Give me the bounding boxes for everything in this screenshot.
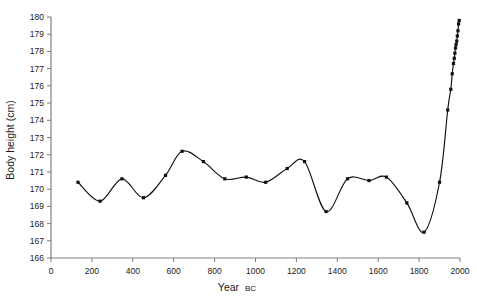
y-tick-label: 173 [30, 133, 44, 143]
y-tick-label: 167 [30, 236, 44, 246]
y-tick-label: 166 [30, 253, 44, 263]
data-point [367, 179, 370, 182]
x-tick-label: 200 [85, 266, 99, 276]
y-tick-label: 171 [30, 167, 44, 177]
data-point [98, 200, 101, 203]
data-point [405, 201, 408, 204]
y-tick-label: 176 [30, 81, 44, 91]
data-point [142, 196, 145, 199]
data-point [303, 160, 306, 163]
data-point [120, 177, 123, 180]
data-point [451, 72, 454, 75]
data-point [202, 160, 205, 163]
y-tick-label: 168 [30, 219, 44, 229]
data-point [449, 88, 452, 91]
data-point [422, 231, 425, 234]
data-point [264, 181, 267, 184]
x-tick-label: 800 [208, 266, 222, 276]
x-tick-label: 1200 [287, 266, 306, 276]
body-height-line-chart: Body height (cm) Year BC 166167168169170… [0, 0, 477, 300]
x-tick-label: 2000 [451, 266, 470, 276]
series-markers-body-height [76, 19, 460, 234]
x-axis-ticks: 0200400600800100012001400160018002000 [49, 258, 470, 276]
y-tick-label: 174 [30, 115, 44, 125]
y-tick-label: 177 [30, 64, 44, 74]
series-line-body-height [78, 20, 459, 232]
data-point [456, 34, 459, 37]
data-point [245, 175, 248, 178]
data-point [455, 40, 458, 43]
data-point [453, 57, 456, 60]
data-point [455, 43, 458, 46]
data-point [453, 52, 456, 55]
x-tick-label: 1600 [369, 266, 388, 276]
x-tick-label: 400 [126, 266, 140, 276]
y-tick-label: 175 [30, 98, 44, 108]
x-axis-title: Year BC [218, 281, 256, 293]
y-tick-label: 172 [30, 150, 44, 160]
data-point [223, 177, 226, 180]
data-point [164, 174, 167, 177]
data-point [346, 177, 349, 180]
x-tick-label: 1000 [246, 266, 265, 276]
data-point [456, 29, 459, 32]
data-point [446, 108, 449, 111]
y-tick-label: 180 [30, 12, 44, 22]
y-axis-title: Body height (cm) [4, 100, 16, 179]
y-tick-label: 178 [30, 46, 44, 56]
data-point [454, 46, 457, 49]
chart-figure: Body height (cm) Year BC 166167168169170… [0, 0, 477, 300]
data-point [324, 210, 327, 213]
x-tick-label: 1800 [410, 266, 429, 276]
y-tick-label: 179 [30, 29, 44, 39]
x-axis-title-main: Year [218, 281, 240, 293]
data-point [286, 167, 289, 170]
data-point [385, 175, 388, 178]
data-point [438, 181, 441, 184]
x-tick-label: 600 [167, 266, 181, 276]
data-point [76, 181, 79, 184]
data-point [457, 22, 460, 25]
x-axis-title-era: BC [245, 284, 256, 293]
y-axis-ticks: 1661671681691701711721731741751761771781… [30, 12, 51, 263]
x-tick-label: 1400 [328, 266, 347, 276]
y-tick-label: 170 [30, 184, 44, 194]
data-point [458, 19, 461, 22]
data-point [180, 150, 183, 153]
y-tick-label: 169 [30, 201, 44, 211]
x-tick-label: 0 [49, 266, 54, 276]
data-point [452, 62, 455, 65]
